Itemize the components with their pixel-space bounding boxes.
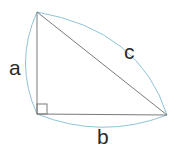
arc-a [26, 12, 38, 114]
triangle-diagram: a c b [0, 0, 179, 153]
label-b: b [97, 125, 109, 148]
label-c: c [124, 40, 135, 63]
right-angle-marker [37, 104, 47, 114]
diagram-canvas: a c b [0, 0, 179, 153]
triangle [37, 12, 167, 115]
label-a: a [9, 56, 21, 79]
